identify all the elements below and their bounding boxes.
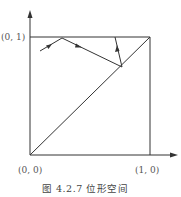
x-axis (30, 153, 178, 158)
trajectory-segment-2 (62, 38, 122, 67)
trajectory-arrow-icon-3 (115, 45, 120, 52)
trajectory (40, 37, 122, 67)
trajectory-arrow-icon-2 (75, 44, 82, 48)
label-origin: (0, 0) (18, 165, 42, 175)
configuration-space-diagram: (0, 1) (0, 0) (1, 0) 图 4.2.7 位形空间 (0, 0, 181, 197)
label-bottom-right: (1, 0) (135, 165, 159, 175)
label-top-left: (0, 1) (1, 32, 25, 42)
figure-caption: 图 4.2.7 位形空间 (42, 183, 128, 194)
diagonal-line (30, 37, 150, 155)
x-axis-arrow-icon (170, 153, 178, 158)
y-axis (28, 10, 33, 155)
trajectory-segment-3 (115, 37, 122, 67)
trajectory-arrow-icon-1 (46, 44, 52, 49)
y-axis-arrow-icon (28, 10, 33, 18)
